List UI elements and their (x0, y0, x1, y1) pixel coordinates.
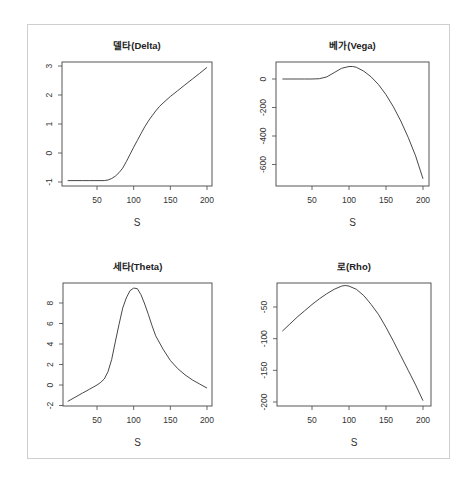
y-tick-label: 3 (44, 63, 54, 68)
x-tick-label: 200 (200, 195, 214, 205)
chart-title: 델타(Delta) (113, 40, 161, 51)
y-tick-label: 1 (44, 121, 54, 126)
vega-curve (282, 67, 423, 179)
plot-area (63, 283, 212, 406)
x-tick-label: 150 (379, 415, 393, 425)
y-tick-label: -50 (259, 301, 269, 314)
x-tick-label: 100 (127, 195, 141, 205)
y-tick-label: -200 (258, 99, 268, 116)
chart-vega: 베가(Vega)50100150200S0-200-400-600 (258, 40, 430, 228)
theta-curve (68, 288, 207, 401)
y-tick-label: -1 (44, 178, 54, 186)
x-axis: 50100150200 (307, 406, 430, 425)
x-axis-label: S (134, 437, 141, 448)
rho-curve (282, 286, 423, 401)
greeks-figure: 델타(Delta)50100150200S-10123베가(Vega)50100… (0, 0, 472, 486)
x-axis-label: S (134, 217, 141, 228)
x-tick-label: 150 (163, 415, 177, 425)
x-tick-label: 100 (342, 195, 356, 205)
x-axis: 50100150200 (92, 406, 214, 425)
chart-theta: 세타(Theta)50100150200S-202468 (45, 261, 214, 448)
plot-area (62, 62, 212, 186)
x-axis: 50100150200 (92, 186, 214, 205)
x-axis-label: S (351, 437, 358, 448)
x-tick-label: 200 (416, 415, 430, 425)
chart-rho: 로(Rho)50100150200S-50-100-150-200 (259, 261, 431, 448)
chart-title: 로(Rho) (337, 261, 371, 272)
x-tick-label: 100 (342, 415, 356, 425)
y-tick-label: 8 (45, 300, 55, 305)
x-tick-label: 50 (307, 195, 317, 205)
y-tick-label: -200 (259, 393, 269, 410)
x-tick-label: 50 (307, 415, 317, 425)
x-tick-label: 200 (200, 415, 214, 425)
y-tick-label: -600 (258, 156, 268, 173)
chart-delta: 델타(Delta)50100150200S-10123 (44, 40, 214, 228)
y-tick-label: 0 (45, 382, 55, 387)
y-tick-label: 0 (44, 150, 54, 155)
x-tick-label: 150 (163, 195, 177, 205)
y-tick-label: 2 (45, 362, 55, 367)
x-tick-label: 50 (92, 415, 102, 425)
y-tick-label: -2 (45, 401, 55, 409)
y-tick-label: 6 (45, 321, 55, 326)
x-tick-label: 150 (379, 195, 393, 205)
delta-curve (68, 67, 207, 180)
x-tick-label: 200 (416, 195, 430, 205)
chart-title: 베가(Vega) (329, 40, 376, 51)
y-axis: -50-100-150-200 (259, 301, 277, 411)
y-tick-label: -150 (259, 362, 269, 379)
y-axis: 0-200-400-600 (258, 76, 276, 173)
chart-title: 세타(Theta) (113, 261, 163, 272)
y-tick-label: 0 (258, 76, 268, 81)
y-tick-label: -100 (259, 330, 269, 347)
y-tick-label: -400 (258, 127, 268, 144)
x-tick-label: 50 (92, 195, 102, 205)
x-axis: 50100150200 (307, 186, 430, 205)
y-tick-label: 2 (44, 92, 54, 97)
x-axis-label: S (349, 217, 356, 228)
plot-area (276, 62, 429, 186)
y-axis: -10123 (44, 63, 62, 185)
y-axis: -202468 (45, 300, 63, 409)
y-tick-label: 4 (45, 341, 55, 346)
x-tick-label: 100 (127, 415, 141, 425)
plot-area (277, 283, 431, 406)
